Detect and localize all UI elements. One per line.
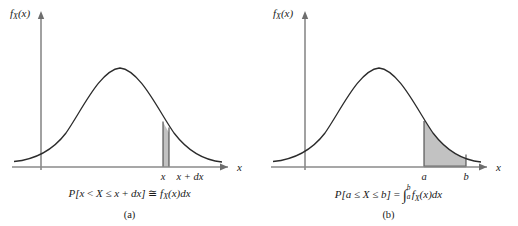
x-axis-a bbox=[12, 164, 228, 171]
y-axis-label-a: fX(x) bbox=[10, 8, 30, 21]
formula-b-lead: P[ bbox=[335, 188, 346, 200]
panel-a: fX(x) x x x + dx P[x < X ≤ x + dx] ≅ fX(… bbox=[0, 0, 259, 226]
formula-a-X: X bbox=[96, 187, 103, 199]
formula-a-dx1: dx bbox=[131, 187, 141, 199]
shaded-area-b bbox=[424, 40, 466, 167]
formula-a-dx2: dx bbox=[180, 187, 190, 199]
subcaption-a: (a) bbox=[0, 210, 259, 221]
y-axis-a bbox=[38, 11, 44, 170]
panel-b: fX(x) x a b P[a ≤ X ≤ b] = ∫bafX(x)dx (b… bbox=[259, 0, 518, 226]
b-tick-b: b bbox=[459, 172, 473, 183]
formula-a-rel1: < bbox=[84, 187, 96, 199]
y-axis-label-a-arg: (x) bbox=[18, 7, 30, 19]
integral-upper-limit: b bbox=[407, 184, 411, 192]
y-axis-label-b-arg: (x) bbox=[281, 7, 293, 19]
x-axis-label-a: x bbox=[237, 162, 242, 173]
figure-container: fX(x) x x x + dx P[x < X ≤ x + dx] ≅ fX(… bbox=[0, 0, 518, 226]
formula-b-dx: dx bbox=[432, 188, 442, 200]
y-axis-b bbox=[302, 11, 308, 170]
formula-a-approx: ≅ bbox=[148, 187, 160, 199]
formula-a-farg: (x) bbox=[168, 187, 180, 199]
formula-b-farg: (x) bbox=[420, 188, 432, 200]
formula-b-X: X bbox=[363, 188, 370, 200]
formula-a: P[x < X ≤ x + dx] ≅ fX(x)dx bbox=[0, 188, 259, 201]
a-tick-b: a bbox=[417, 172, 431, 183]
formula-a-rel2: ≤ bbox=[103, 187, 115, 199]
shaded-strip-a bbox=[163, 60, 169, 167]
y-axis-label-b: fX(x) bbox=[273, 8, 293, 21]
formula-a-lead: P[ bbox=[68, 187, 79, 199]
integral-lower-limit: a bbox=[407, 193, 411, 201]
formula-b: P[a ≤ X ≤ b] = ∫bafX(x)dx bbox=[259, 188, 518, 203]
formula-b-rel1: ≤ bbox=[351, 188, 363, 200]
integral-limits: ba bbox=[407, 188, 412, 199]
formula-b-close: ] bbox=[387, 188, 394, 200]
formula-b-eq: = bbox=[394, 188, 403, 200]
density-curve-a bbox=[14, 68, 222, 162]
x-tick-upper-a: x + dx bbox=[168, 172, 212, 183]
formula-a-plus: + bbox=[119, 187, 131, 199]
formula-b-rel2: ≤ bbox=[370, 188, 382, 200]
subcaption-b: (b) bbox=[259, 210, 518, 221]
x-axis-label-b: x bbox=[496, 162, 501, 173]
